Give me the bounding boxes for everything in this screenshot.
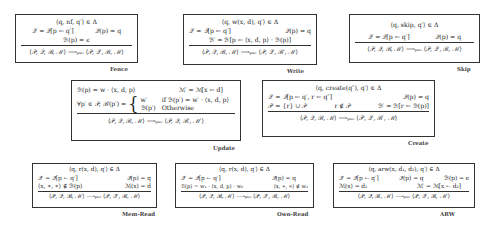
premise: 𝒬(p) = q xyxy=(403,92,429,101)
inference-bar xyxy=(189,45,311,46)
rule-name: Own-Read xyxy=(277,211,308,217)
left-brace: { xyxy=(128,96,138,111)
rule-name: Write xyxy=(287,68,304,74)
conclusion: ⟨𝒫, 𝒬, ℬ, ℳ⟩ ⟶ₚₛₒ ⟨𝒫′, 𝒬′, ℬ′, ℳ⟩ xyxy=(268,113,429,122)
premise: 𝒬(p) = q xyxy=(435,32,461,41)
case-condition: Otherwise xyxy=(162,104,229,112)
premise: 𝒬(p) = q xyxy=(399,174,424,183)
premise-top: ⟨q, r(x, d), q′⟩ ∈ Δ xyxy=(181,165,308,174)
rule-fence-box: ⟨q, nf, q′⟩ ∈ Δ 𝒬′ = 𝒬[p ← q′] 𝒬(p) = q … xyxy=(15,14,138,63)
premise: 𝒬(p) = q xyxy=(95,26,121,35)
conclusion: ⟨𝒫, 𝒬, ℬ, ℳ⟩ ⟶ₚₛₒ ⟨𝒫, 𝒬′, ℬ, ℳ⟩ xyxy=(181,192,308,201)
premise: 𝒬′ = 𝒬[p ← q′] xyxy=(32,26,74,35)
rule-mem-read-box: ⟨q, r(x, d), q′⟩ ∈ Δ 𝒬′ = 𝒬[p ← q′] 𝒬(p)… xyxy=(32,163,157,208)
rule-name: Fence xyxy=(110,66,128,72)
premise: ℳ(x) = d₁ xyxy=(339,182,367,191)
premise: 𝒬′ = 𝒬[p ← q′] xyxy=(339,174,379,183)
premise: ℬ(p) = ϵ xyxy=(444,174,469,183)
premise: 𝒬(p) = q xyxy=(127,174,152,183)
premise: r ∉ 𝒫 xyxy=(334,101,349,110)
rule-name: Mem-Read xyxy=(122,211,155,217)
premise: ℬ(p) = w₁ · ⟨x, d, p⟩ · w₂ xyxy=(181,182,243,191)
premise-top: ⟨q, nf, q′⟩ ∈ Δ xyxy=(21,17,132,26)
premise: 𝒬(p) = q xyxy=(272,174,297,183)
premise: 𝒬′ = 𝒬[p ← q′] xyxy=(181,174,221,183)
rule-name: Update xyxy=(213,145,235,151)
premise: ⟨x, ∗, ∗⟩ ∉ w₁ xyxy=(274,182,308,191)
premise: ℳ′ = ℳ[x ← d] xyxy=(179,85,223,94)
rule-own-read-box: ⟨q, r(x, d), q′⟩ ∈ Δ 𝒬′ = 𝒬[p ← q′] 𝒬(p)… xyxy=(175,163,314,208)
conclusion: ⟨𝒫, 𝒬, ℬ, ℳ⟩ ⟶ₚₛₒ ⟨𝒫, 𝒬′, ℬ, ℳ⟩ xyxy=(21,47,132,56)
premise: 𝒬′ = 𝒬[p ← q′, r ← q″] xyxy=(268,92,332,101)
rule-update-box: ℬ(p) = w · ⟨x, d, p⟩ ℳ′ = ℳ[x ← d] ∀p′ ∈… xyxy=(71,80,241,141)
rule-name: Create xyxy=(408,140,428,146)
rule-name: ARW xyxy=(440,211,455,217)
premise: ℬ(p) = w · ⟨x, d, p⟩ xyxy=(77,85,135,94)
premise: 𝒬′ = 𝒬[p ← q′] xyxy=(38,174,78,183)
conclusion: ⟨𝒫, 𝒬, ℬ, ℳ⟩ ⟶ₚₛₒ ⟨𝒫, 𝒬′, ℬ, ℳ⟩ xyxy=(38,192,151,201)
premise-top: ⟨q, r(x, d), q′⟩ ∈ Δ xyxy=(38,165,151,174)
inference-bar xyxy=(77,113,235,114)
premise: ℳ′ = ℳ[x ← d₂] xyxy=(417,182,461,191)
conclusion: ⟨𝒫, 𝒬, ℬ, ℳ⟩ ⟶ₚₛₒ ⟨𝒫, 𝒬, ℬ′, ℳ′⟩ xyxy=(77,116,235,125)
premise: ℬ′ = ℬ[p ← ⟨x, d, p⟩ · ℬ(p)] xyxy=(189,35,311,44)
rule-write-box: ⟨q, w(x, d), q′⟩ ∈ Δ 𝒬′ = 𝒬[p ← q′] 𝒬(p)… xyxy=(183,14,317,65)
premise-top: ⟨q, w(x, d), q′⟩ ∈ Δ xyxy=(189,17,311,26)
premise: 𝒬′ = 𝒬[p ← q′] xyxy=(368,32,410,41)
premise: ℳ(x) = d xyxy=(125,182,151,191)
premise-top: ⟨q, arw(x, d₁, d₂), q′⟩ ∈ Δ xyxy=(339,165,469,174)
premise: ℬ′ = ℬ[r ← ℬ(p)] xyxy=(378,101,429,110)
rule-skip-box: ⟨q, skip, q′⟩ ∈ Δ 𝒬′ = 𝒬[p ← q′] 𝒬(p) = … xyxy=(349,14,480,63)
rule-create-box: ⟨q, create(q″), q′⟩ ∈ Δ 𝒬′ = 𝒬[p ← q′, r… xyxy=(262,80,435,137)
conclusion: ⟨𝒫, 𝒬, ℬ, ℳ⟩ ⟶ₚₛₒ ⟨𝒫, 𝒬′, ℬ, ℳ′⟩ xyxy=(339,192,469,201)
case-value: w′ xyxy=(141,96,156,104)
case-expression: { w′ if ℬ(p′) = w′ · ⟨x, d, p⟩ ℬ(p′) Oth… xyxy=(126,96,229,111)
conclusion: ⟨𝒫, 𝒬, ℬ, ℳ⟩ ⟶ₚₛₒ ⟨𝒫, 𝒬′, ℬ, ℳ⟩ xyxy=(355,44,474,53)
conclusion: ⟨𝒫, 𝒬, ℬ, ℳ⟩ ⟶ₚₛₒ ⟨𝒫, 𝒬′, ℬ′, ℳ⟩ xyxy=(189,47,311,56)
premise: 𝒬(p) = q xyxy=(285,26,311,35)
rule-arw-box: ⟨q, arw(x, d₁, d₂), q′⟩ ∈ Δ 𝒬′ = 𝒬[p ← q… xyxy=(333,163,475,208)
case-value: ℬ(p′) xyxy=(141,104,156,112)
premise: ∀p′ ∈ 𝒫, ℬ′(p′) = xyxy=(77,99,126,108)
rule-name: Skip xyxy=(457,66,471,72)
inference-bar xyxy=(268,111,429,112)
case-condition: if ℬ(p′) = w′ · ⟨x, d, p⟩ xyxy=(162,96,229,104)
inference-bar xyxy=(355,42,474,43)
premise: 𝒫′ = {r} ∪ 𝒫 xyxy=(268,101,306,110)
premise: ℬ(p) = ϵ xyxy=(21,35,132,44)
premise: 𝒬′ = 𝒬[p ← q′] xyxy=(189,26,231,35)
premise-top: ⟨q, create(q″), q′⟩ ∈ Δ xyxy=(268,83,429,92)
inference-bar xyxy=(21,45,132,46)
premise-top: ⟨q, skip, q′⟩ ∈ Δ xyxy=(355,20,474,29)
premise: ⟨x, ∗, ∗⟩ ∉ ℬ(p) xyxy=(38,182,82,191)
